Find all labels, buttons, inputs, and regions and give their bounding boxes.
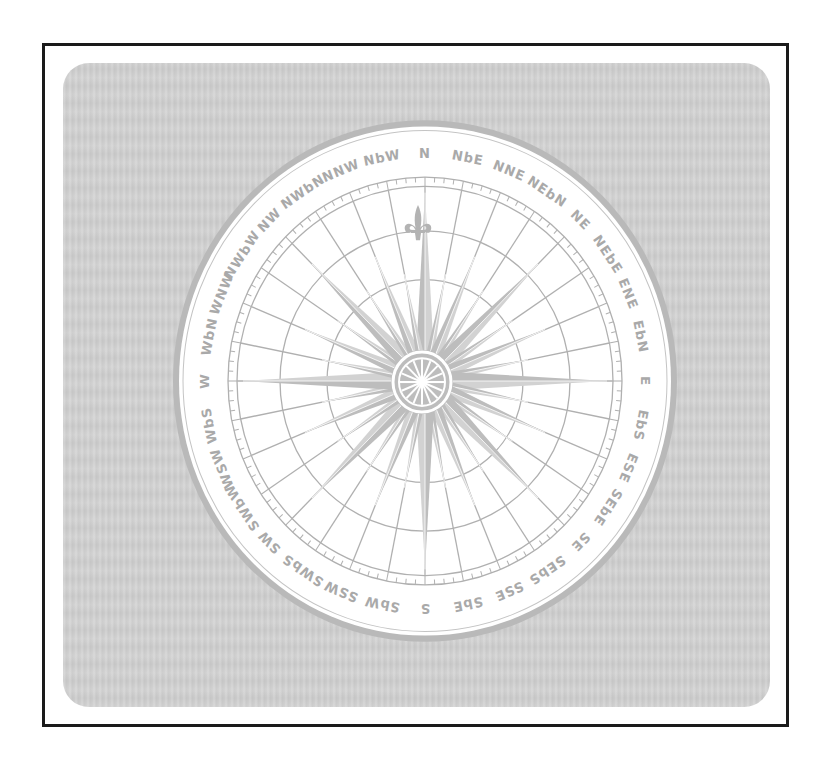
point-label-s: S bbox=[420, 601, 430, 616]
point-label-w: W bbox=[198, 373, 213, 389]
center-hub bbox=[391, 350, 453, 414]
compass-rose: NNbENNENEbNNENEbEENEEbNEEbSESESEbESESEbS… bbox=[0, 0, 819, 763]
point-label-n: N bbox=[419, 146, 431, 161]
point-label-e: E bbox=[638, 376, 653, 386]
